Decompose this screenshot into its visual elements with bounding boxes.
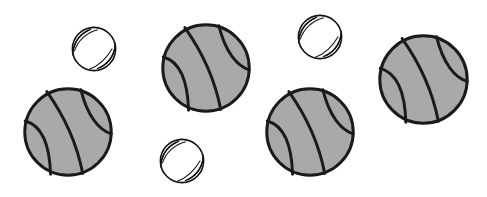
baseball-1 bbox=[70, 25, 118, 73]
basketball-1 bbox=[22, 86, 114, 178]
ball-scene bbox=[0, 0, 487, 197]
baseball-graphic bbox=[296, 13, 344, 61]
basketball-4 bbox=[377, 33, 470, 126]
baseball-body bbox=[298, 15, 341, 58]
basketball-graphic bbox=[22, 86, 114, 178]
baseball-body bbox=[72, 27, 115, 70]
baseball-3 bbox=[296, 13, 344, 61]
basketball-graphic bbox=[377, 33, 470, 126]
basketball-body bbox=[25, 89, 111, 175]
basketball-body bbox=[380, 36, 467, 123]
basketball-2 bbox=[160, 22, 252, 114]
basketball-body bbox=[267, 89, 353, 175]
basketball-graphic bbox=[264, 86, 356, 178]
baseball-graphic bbox=[70, 25, 118, 73]
baseball-graphic bbox=[158, 137, 206, 185]
basketball-body bbox=[163, 25, 249, 111]
basketball-3 bbox=[264, 86, 356, 178]
baseball-2 bbox=[158, 137, 206, 185]
basketball-graphic bbox=[160, 22, 252, 114]
baseball-body bbox=[160, 139, 203, 182]
